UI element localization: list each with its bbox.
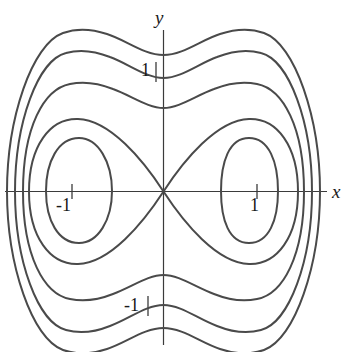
level-curve-inner-right bbox=[221, 138, 278, 243]
y-axis-label: y bbox=[155, 8, 163, 27]
phase-portrait-plot bbox=[0, 0, 358, 352]
y-tick-label-negative-one: -1 bbox=[124, 296, 139, 314]
x-tick-label-positive-one: 1 bbox=[250, 196, 259, 214]
phase-portrait-figure: y x 1 -1 -1 1 bbox=[0, 0, 358, 352]
x-axis-label: x bbox=[332, 182, 340, 201]
x-tick-label-negative-one: -1 bbox=[56, 196, 71, 214]
y-tick-label-positive-one: 1 bbox=[141, 61, 150, 79]
level-curve-inner-left bbox=[46, 138, 112, 243]
